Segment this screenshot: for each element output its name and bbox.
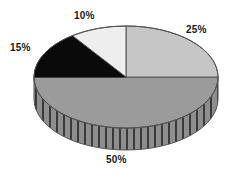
pie-chart-figure: 10% 25% 15% 50%: [0, 0, 234, 174]
pie-label-50: 50%: [106, 155, 127, 165]
pie-label-25: 25%: [186, 25, 207, 35]
pie-label-15: 15%: [10, 43, 31, 53]
pie-top-face: [34, 26, 218, 128]
pie-label-10: 10%: [74, 11, 95, 21]
